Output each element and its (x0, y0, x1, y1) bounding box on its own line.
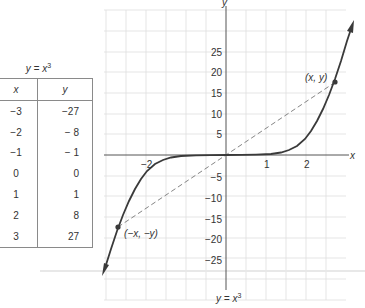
point-x-y (332, 79, 337, 84)
x-tick-label: 2 (304, 159, 310, 170)
axes (104, 6, 349, 290)
caption-exponent: 3 (237, 292, 241, 299)
cubic-graph: y x −2 1 2 25 20 15 10 5 −5 −10 −15 −20 … (0, 0, 365, 308)
y-tick-label: −20 (205, 234, 222, 245)
point-label-neg-x-neg-y: (−x, −y) (124, 228, 158, 239)
y-tick-label: −15 (205, 214, 222, 225)
y-tick-label: −5 (211, 172, 223, 183)
y-tick-label: 25 (211, 47, 223, 58)
graph-caption: y = x3 (215, 292, 241, 304)
y-tick-label: 5 (216, 129, 222, 140)
arrow-up-right-icon (347, 20, 354, 33)
x-axis-label: x (349, 150, 356, 161)
y-tick-label: 10 (211, 109, 223, 120)
y-tick-label: −10 (205, 193, 222, 204)
y-tick-label: −25 (205, 255, 222, 266)
point-label-x-y: (x, y) (305, 72, 327, 83)
y-tick-label: 20 (211, 67, 223, 78)
point-neg-x-neg-y (115, 224, 120, 229)
x-tick-label: 1 (264, 159, 270, 170)
x-tick-label: −2 (141, 159, 153, 170)
arrow-down-left-icon (102, 263, 109, 276)
caption-base: y = x (215, 293, 238, 304)
y-axis-label: y (221, 0, 228, 8)
y-tick-label: 15 (211, 88, 223, 99)
